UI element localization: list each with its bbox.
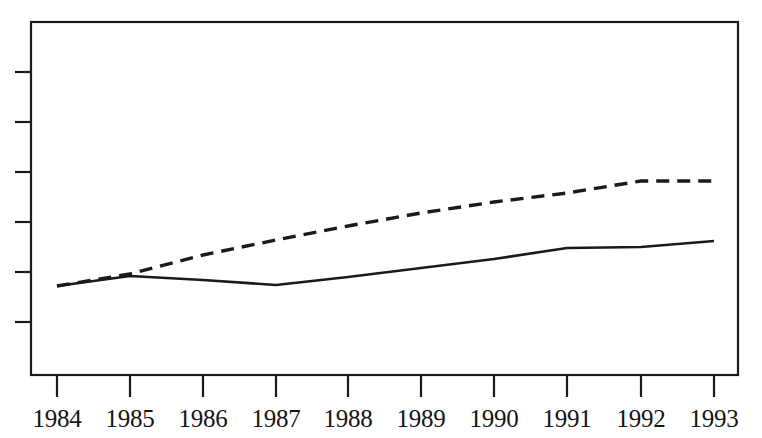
x-tick-label-1985: 1985: [105, 405, 154, 432]
chart-canvas: 1984198519861987198819891990199119921993: [0, 0, 762, 438]
x-tick-label-1987: 1987: [251, 405, 300, 432]
x-tick-label-1988: 1988: [323, 405, 372, 432]
chart-background: [0, 0, 762, 438]
x-tick-label-1984: 1984: [32, 405, 82, 432]
x-tick-label-1990: 1990: [469, 405, 518, 432]
x-tick-label-1993: 1993: [689, 405, 738, 432]
x-tick-label-1992: 1992: [616, 405, 665, 432]
x-tick-label-1991: 1991: [542, 405, 591, 432]
x-tick-label-1989: 1989: [396, 405, 445, 432]
x-tick-label-1986: 1986: [178, 405, 227, 432]
chart-figure: 1984198519861987198819891990199119921993: [0, 0, 762, 438]
